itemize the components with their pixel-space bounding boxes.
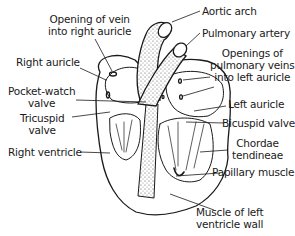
- label-muscle-left-ventricle-wall: Muscle of left ventricle wall: [196, 206, 263, 230]
- label-line: Pocket-watch: [8, 85, 75, 97]
- label-line: Opening of vein: [48, 13, 131, 25]
- label-line: valve: [20, 124, 64, 136]
- label-line: pulmonary veins: [210, 59, 295, 71]
- label-tricuspid-valve: Tricuspid valve: [20, 112, 64, 136]
- label-line: ventricle wall: [196, 218, 263, 230]
- label-line: Chordae: [232, 137, 283, 149]
- label-line: Openings of: [210, 47, 295, 59]
- label-line: Muscle of left: [196, 206, 263, 218]
- label-aortic-arch: Aortic arch: [202, 5, 257, 17]
- label-pulmonary-artery: Pulmonary artery: [202, 27, 290, 39]
- label-line: into right auricle: [48, 25, 131, 37]
- heart-diagram: Opening of vein into right auricle Right…: [0, 0, 295, 236]
- label-line: valve: [8, 97, 75, 109]
- label-papillary-muscle: Papillary muscle: [212, 166, 294, 178]
- label-right-auricle: Right auricle: [16, 56, 80, 68]
- label-line: Tricuspid: [20, 112, 64, 124]
- label-opening-vein-right-auricle: Opening of vein into right auricle: [48, 13, 131, 37]
- label-right-ventricle: Right ventricle: [8, 146, 82, 158]
- label-line: into left auricle: [210, 71, 295, 83]
- label-pocket-watch-valve: Pocket-watch valve: [8, 85, 75, 109]
- label-left-auricle: Left auricle: [228, 98, 284, 110]
- label-bicuspid-valve: Bicuspid valve: [222, 117, 295, 129]
- label-line: tendineae: [232, 149, 283, 161]
- label-chordae-tendineae: Chordae tendineae: [232, 137, 283, 161]
- label-openings-pulmonary-veins: Openings of pulmonary veins into left au…: [210, 47, 295, 83]
